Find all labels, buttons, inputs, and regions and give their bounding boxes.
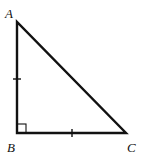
triangle-abc — [17, 22, 126, 133]
vertex-label-b: B — [7, 140, 15, 155]
vertex-label-a: A — [4, 6, 13, 21]
vertex-label-c: C — [127, 140, 136, 155]
right-angle-marker — [17, 124, 26, 133]
triangle-diagram: A B C — [0, 0, 143, 155]
